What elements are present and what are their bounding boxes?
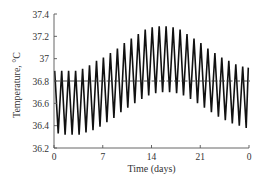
y-tick-label: 37.2 <box>32 32 49 42</box>
temperature-chart: 36.236.436.636.83737.237.4 0714210 Time … <box>0 0 268 187</box>
y-tick-label: 37 <box>40 54 50 64</box>
x-axis: 0714210 <box>52 145 252 162</box>
plot-area <box>54 26 250 134</box>
temperature-line <box>55 26 249 134</box>
y-axis-title: Temperature, °C <box>11 52 22 118</box>
x-tick-label: 14 <box>147 152 157 162</box>
y-axis: 36.236.436.636.83737.237.4 <box>32 10 57 154</box>
y-tick-label: 37.4 <box>32 10 49 20</box>
x-tick-label: 0 <box>52 152 57 162</box>
x-tick-label: 7 <box>100 152 105 162</box>
y-tick-label: 36.6 <box>32 99 49 109</box>
y-tick-label: 36.2 <box>32 144 49 154</box>
y-tick-label: 36.8 <box>32 77 49 87</box>
y-tick-label: 36.4 <box>32 121 49 131</box>
x-axis-title: Time (days) <box>127 163 175 175</box>
x-tick-label: 21 <box>196 152 206 162</box>
x-tick-label: 0 <box>247 152 252 162</box>
